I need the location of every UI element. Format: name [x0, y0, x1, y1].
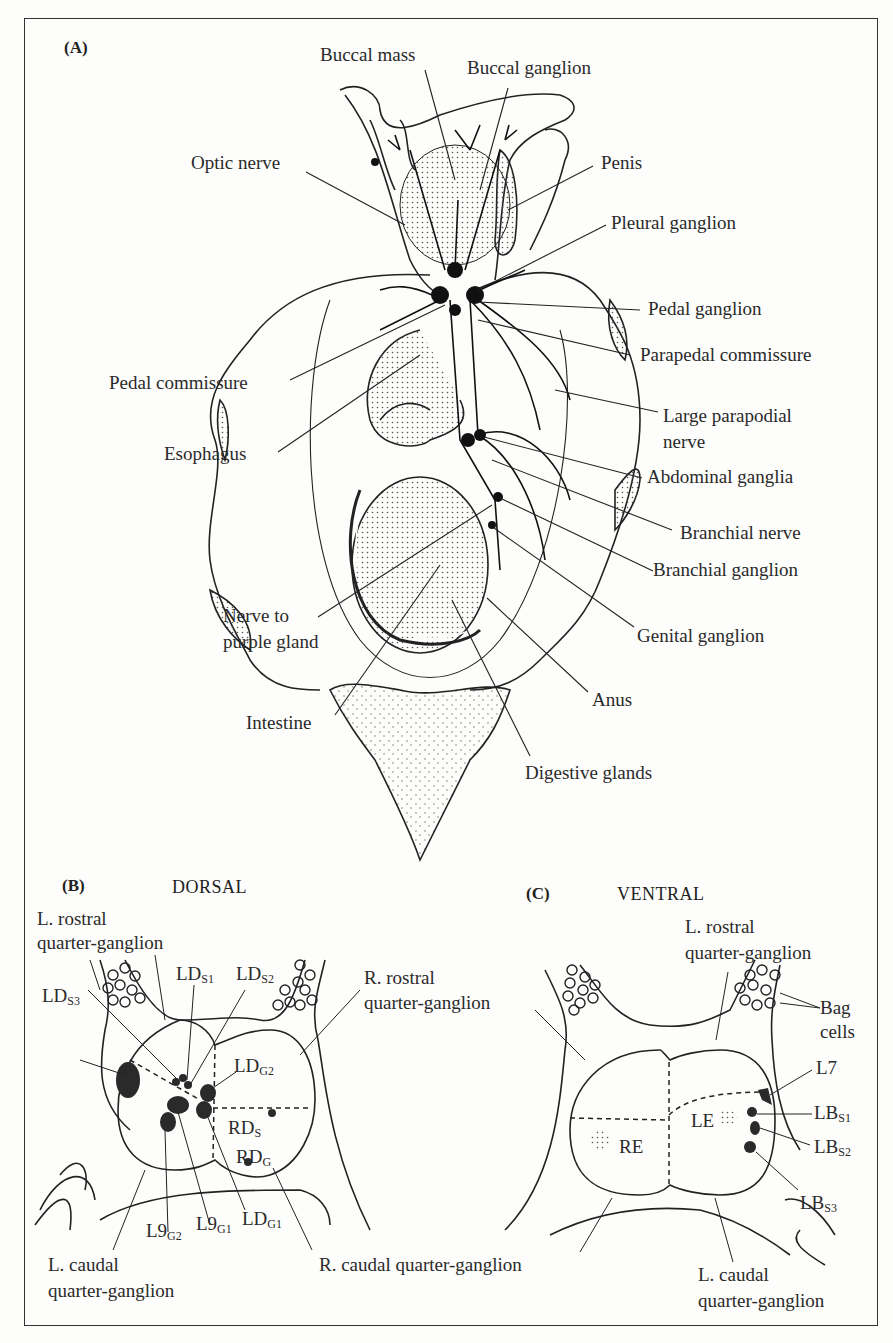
label-b-r-rostral-1: R. rostral	[364, 967, 435, 989]
label-bag-cells-1: Bag	[820, 997, 851, 1019]
label-pedal-commissure: Pedal commissure	[109, 372, 248, 394]
label-large-parapodial-nerve-2: nerve	[663, 431, 705, 453]
label-nerve-purple-gland-1: Nerve to	[223, 605, 289, 627]
panel-c-tag: (C)	[526, 884, 550, 904]
label-l9-g1: L9G1	[196, 1213, 232, 1240]
label-buccal-mass: Buccal mass	[320, 44, 416, 66]
bag-cells-c	[563, 965, 780, 1015]
label-b-l-rostral-1: L. rostral	[37, 908, 107, 930]
label-nerve-purple-gland-2: purple gland	[223, 631, 319, 653]
label-rd-g: RDG	[236, 1146, 271, 1173]
label-c-l-rostral-1: L. rostral	[685, 916, 755, 938]
label-le: LE	[691, 1110, 714, 1132]
label-b-r-rostral-2: quarter-ganglion	[364, 992, 490, 1014]
label-rd-s: RDS	[228, 1117, 261, 1144]
label-large-parapodial-nerve-1: Large parapodial	[663, 405, 792, 427]
label-re: RE	[619, 1136, 643, 1158]
label-l7: L7	[816, 1057, 837, 1079]
label-anus: Anus	[592, 689, 632, 711]
ventral-neurons	[590, 1088, 772, 1153]
leader-lines-b	[80, 955, 360, 1250]
leader-lines-c	[535, 972, 820, 1262]
label-bag-cells-2: cells	[820, 1021, 855, 1043]
label-ld-g2: LDG2	[234, 1055, 274, 1082]
label-b-l-rostral-2: quarter-ganglion	[37, 932, 163, 954]
ventral-divisions	[570, 1062, 770, 1188]
label-c-l-rostral-2: quarter-ganglion	[685, 942, 811, 964]
panel-b-heading: DORSAL	[172, 877, 247, 898]
label-penis: Penis	[601, 152, 642, 174]
label-lb-s1: LBS1	[814, 1102, 851, 1129]
label-genital-ganglion: Genital ganglion	[637, 625, 764, 647]
ventral-ganglion-drawing	[505, 960, 835, 1265]
panel-b-tag: (B)	[62, 876, 85, 896]
label-b-l-caudal-1: L. caudal	[48, 1254, 119, 1276]
label-ld-g1: LDG1	[242, 1208, 282, 1235]
label-digestive-glands: Digestive glands	[525, 762, 652, 784]
label-lb-s3: LBS3	[800, 1192, 837, 1219]
label-lb-s2: LBS2	[814, 1136, 851, 1163]
dorsal-divisions	[130, 1045, 310, 1160]
label-c-l-caudal-2: quarter-ganglion	[698, 1290, 824, 1312]
label-parapedal-commissure: Parapedal commissure	[640, 344, 811, 366]
label-esophagus: Esophagus	[164, 443, 246, 465]
label-ld-s3: LDS3	[42, 985, 80, 1012]
label-abdominal-ganglia: Abdominal ganglia	[647, 466, 793, 488]
label-intestine: Intestine	[246, 712, 311, 734]
label-ld-s1: LDS1	[176, 963, 214, 990]
anatomy-drawing	[0, 0, 893, 1343]
label-buccal-ganglion: Buccal ganglion	[467, 57, 591, 79]
label-branchial-ganglion: Branchial ganglion	[653, 559, 798, 581]
label-ld-s2: LDS2	[236, 963, 274, 990]
panel-a-tag: (A)	[64, 38, 88, 58]
label-l9-g2: L9G2	[146, 1220, 182, 1247]
panel-c-heading: VENTRAL	[617, 884, 705, 905]
label-b-r-caudal: R. caudal quarter-ganglion	[319, 1254, 522, 1276]
label-b-l-caudal-2: quarter-ganglion	[48, 1280, 174, 1302]
label-c-l-caudal-1: L. caudal	[698, 1264, 769, 1286]
label-pleural-ganglion: Pleural ganglion	[611, 212, 736, 234]
label-optic-nerve: Optic nerve	[191, 152, 280, 174]
label-pedal-ganglion: Pedal ganglion	[648, 298, 761, 320]
label-branchial-nerve: Branchial nerve	[680, 522, 801, 544]
